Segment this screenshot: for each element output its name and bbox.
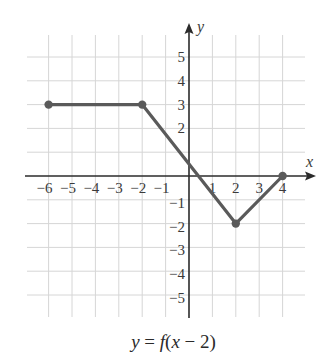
x-tick-label: −1 bbox=[154, 180, 170, 196]
y-tick-label: −4 bbox=[169, 266, 185, 282]
x-tick-label: −2 bbox=[130, 180, 146, 196]
x-tick-label: −3 bbox=[107, 180, 123, 196]
y-tick-label: 2 bbox=[178, 120, 186, 136]
graph-caption: y = f(x − 2) bbox=[8, 331, 331, 353]
y-tick-label: −3 bbox=[169, 242, 185, 258]
y-axis-label: y bbox=[195, 18, 205, 36]
x-tick-label: 4 bbox=[279, 180, 287, 196]
y-tick-label: −1 bbox=[169, 195, 185, 211]
caption-equals: = bbox=[140, 331, 160, 352]
data-point bbox=[232, 219, 240, 227]
data-point bbox=[138, 100, 146, 108]
y-tick-label: 5 bbox=[178, 49, 186, 65]
x-tick-label: 2 bbox=[232, 180, 240, 196]
y-tick-label: −2 bbox=[169, 219, 185, 235]
caption-rest: − 2) bbox=[180, 331, 216, 352]
function-graph: −6−5−4−3−2−112345432−1−2−3−4−5 x y bbox=[0, 0, 331, 356]
x-tick-label: 3 bbox=[255, 180, 263, 196]
tick-labels: −6−5−4−3−2−112345432−1−2−3−4−5 bbox=[37, 49, 287, 306]
y-tick-label: −5 bbox=[169, 290, 185, 306]
data-point bbox=[278, 172, 286, 180]
y-tick-label: 3 bbox=[178, 97, 186, 113]
y-tick-label: 4 bbox=[178, 73, 186, 89]
caption-y: y bbox=[131, 331, 139, 352]
data-point bbox=[44, 100, 52, 108]
x-tick-label: −5 bbox=[60, 180, 76, 196]
x-tick-label: −6 bbox=[37, 180, 53, 196]
caption-x: x bbox=[171, 331, 179, 352]
x-axis-label: x bbox=[305, 153, 313, 170]
x-tick-label: −4 bbox=[83, 180, 99, 196]
